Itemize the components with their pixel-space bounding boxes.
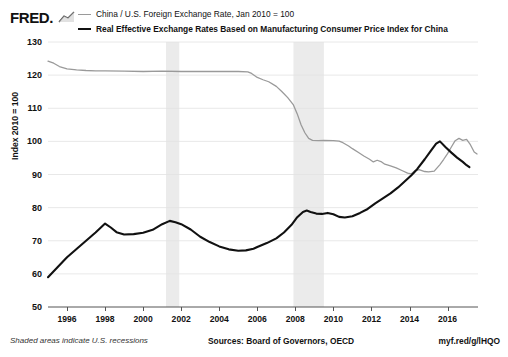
x-axis-tick-mark — [105, 307, 106, 311]
x-axis-tick-mark — [181, 307, 182, 311]
x-axis-tick-mark — [257, 307, 258, 311]
legend-swatch-fx-rate — [78, 14, 91, 15]
y-axis-tick-label: 100 — [27, 136, 42, 146]
x-axis-tick-label: 1998 — [96, 314, 115, 324]
sources-label: Sources: Board of Governors, OECD — [208, 336, 354, 346]
x-axis-tick-mark — [295, 307, 296, 311]
legend-item-reer: Real Effective Exchange Rates Based on M… — [78, 23, 448, 35]
chart-footer: Shaded areas indicate U.S. recessions So… — [0, 336, 508, 354]
x-axis-tick-label: 2012 — [362, 314, 381, 324]
x-axis-tick-mark — [143, 307, 144, 311]
permalink-label[interactable]: myf.red/g/lHQO — [439, 336, 500, 346]
y-axis-tick-label: 80 — [32, 203, 42, 213]
x-axis-tick-label: 2010 — [324, 314, 343, 324]
legend-label-reer: Real Effective Exchange Rates Based on M… — [96, 23, 448, 35]
x-axis-tick-label: 2002 — [172, 314, 191, 324]
plot-canvas — [48, 42, 478, 307]
plot-area: Index 2010 = 100 50607080901001101201301… — [48, 42, 478, 307]
series-line-1 — [48, 141, 469, 277]
legend-label-fx-rate: China / U.S. Foreign Exchange Rate, Jan … — [96, 8, 294, 20]
x-axis-tick-label: 2000 — [134, 314, 153, 324]
y-axis-tick-label: 90 — [32, 170, 42, 180]
trend-line-icon — [58, 11, 75, 23]
y-axis-tick-label: 130 — [27, 37, 42, 47]
x-axis-tick-mark — [333, 307, 334, 311]
x-axis-tick-mark — [67, 307, 68, 311]
x-axis-tick-mark — [448, 307, 449, 311]
chart-legend: China / U.S. Foreign Exchange Rate, Jan … — [78, 8, 448, 38]
recession-note: Shaded areas indicate U.S. recessions — [10, 336, 148, 345]
y-axis-tick-label: 60 — [32, 269, 42, 279]
y-axis-tick-label: 70 — [32, 236, 42, 246]
fred-chart: FRED. China / U.S. Foreign Exchange Rate… — [0, 0, 508, 357]
y-axis-title: Index 2010 = 100 — [10, 92, 20, 160]
legend-item-fx-rate: China / U.S. Foreign Exchange Rate, Jan … — [78, 8, 448, 20]
series-line-0 — [48, 61, 477, 174]
y-axis-tick-label: 110 — [27, 103, 42, 113]
x-axis-tick-label: 2006 — [248, 314, 267, 324]
x-axis-tick-label: 2014 — [400, 314, 419, 324]
x-axis-tick-mark — [410, 307, 411, 311]
legend-swatch-reer — [78, 28, 91, 30]
x-axis-tick-label: 2016 — [438, 314, 457, 324]
x-axis-tick-label: 2008 — [286, 314, 305, 324]
y-axis-tick-label: 120 — [27, 70, 42, 80]
fred-logo: FRED. — [10, 9, 53, 26]
x-axis-tick-label: 2004 — [210, 314, 229, 324]
x-axis-tick-label: 1996 — [57, 314, 76, 324]
x-axis-tick-mark — [371, 307, 372, 311]
y-axis-tick-label: 50 — [32, 302, 42, 312]
chart-header: FRED. China / U.S. Foreign Exchange Rate… — [0, 0, 508, 34]
x-axis-tick-mark — [219, 307, 220, 311]
